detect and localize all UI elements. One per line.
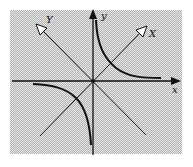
dithered-panel bbox=[10, 10, 182, 154]
origin-point bbox=[91, 79, 95, 83]
hyperbola-diagram: x y Y X bbox=[0, 0, 193, 167]
rotated-x-label: X bbox=[148, 28, 157, 39]
x-axis-label: x bbox=[172, 84, 178, 95]
y-axis-label: y bbox=[100, 10, 107, 21]
